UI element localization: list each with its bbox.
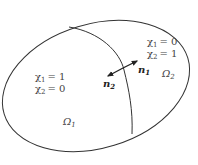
normal-arrow-n1 <box>123 61 137 68</box>
region-omega2-label: Ω2 <box>161 68 175 81</box>
two-phase-domain-diagram: χ1= 0 χ2= 1 χ1= 1 χ2= 0 n1 n2 Ω2 Ω1 <box>0 0 198 165</box>
normal-arrow-n2 <box>108 68 123 76</box>
interface-curve <box>69 27 132 134</box>
normal-n2-label: n2 <box>103 78 115 91</box>
region-omega1-label: Ω1 <box>62 116 76 129</box>
outer-boundary <box>0 0 198 165</box>
normal-n1-label: n1 <box>138 64 150 77</box>
omega2-chi2-label: χ2= 1 <box>147 48 177 61</box>
omega1-chi2-label: χ2= 0 <box>35 83 65 96</box>
